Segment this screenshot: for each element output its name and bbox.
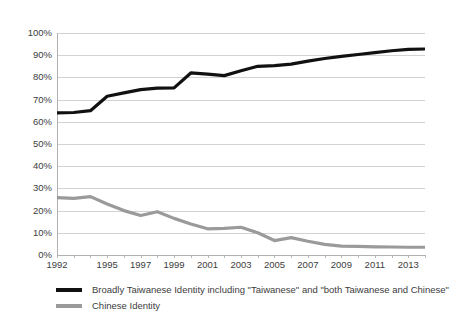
- legend-item-chinese-identity[interactable]: Chinese Identity: [56, 298, 436, 314]
- x-axis-tick-mark: [258, 255, 259, 258]
- legend-label: Broadly Taiwanese Identity including "Ta…: [92, 284, 449, 296]
- x-axis-tick-mark: [174, 255, 175, 258]
- x-axis-tick-mark: [325, 255, 326, 258]
- x-axis-tick-mark: [408, 255, 409, 258]
- x-axis-tick-mark: [375, 255, 376, 258]
- x-axis-tick-mark: [224, 255, 225, 258]
- x-axis-tick-mark: [425, 255, 426, 258]
- x-axis-tick-mark: [291, 255, 292, 258]
- x-axis-tick-mark: [308, 255, 309, 258]
- legend-item-broadly-taiwanese[interactable]: Broadly Taiwanese Identity including "Ta…: [56, 282, 436, 298]
- series-line-broadly-taiwanese: [57, 49, 425, 113]
- legend-line-swatch-icon: [56, 288, 82, 292]
- x-axis-tick-mark: [124, 255, 125, 258]
- legend-line-swatch-icon: [56, 304, 82, 308]
- x-axis-tick-mark: [358, 255, 359, 258]
- x-axis-tick-mark: [341, 255, 342, 258]
- x-axis-tick-mark: [90, 255, 91, 258]
- x-axis-tick-mark: [107, 255, 108, 258]
- x-axis-tick-mark: [157, 255, 158, 258]
- legend-label: Chinese Identity: [92, 300, 160, 312]
- x-axis-tick-mark: [74, 255, 75, 258]
- x-axis-tick-mark: [57, 255, 58, 258]
- x-axis-tick-mark: [274, 255, 275, 258]
- chart-legend: Broadly Taiwanese Identity including "Ta…: [56, 282, 436, 314]
- series-line-chinese-identity: [57, 197, 425, 248]
- x-axis-tick-mark: [392, 255, 393, 258]
- x-axis-tick-mark: [141, 255, 142, 258]
- x-axis-tick-mark: [191, 255, 192, 258]
- x-axis-tick-mark: [241, 255, 242, 258]
- x-axis-tick-mark: [208, 255, 209, 258]
